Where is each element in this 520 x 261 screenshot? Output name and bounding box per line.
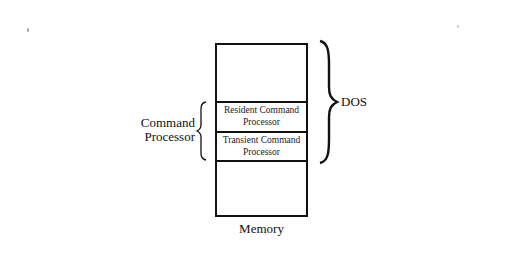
scan-artifact bbox=[27, 28, 29, 32]
resident-command-processor-cell: Resident Command Processor bbox=[217, 104, 306, 128]
divider-line bbox=[217, 160, 306, 162]
divider-line bbox=[217, 131, 306, 133]
left-brace-icon bbox=[195, 100, 209, 162]
memory-label: Memory bbox=[215, 222, 308, 236]
transient-line1: Transient Command bbox=[217, 134, 306, 146]
diagram-canvas: Resident Command Processor Transient Com… bbox=[0, 0, 520, 261]
resident-line2: Processor bbox=[217, 116, 306, 128]
right-brace-icon bbox=[318, 39, 340, 165]
scan-artifact bbox=[457, 25, 459, 28]
transient-command-processor-cell: Transient Command Processor bbox=[217, 134, 306, 158]
command-label-line2: Processor bbox=[140, 130, 195, 144]
command-processor-label: Command Processor bbox=[140, 116, 195, 144]
dos-label: DOS bbox=[341, 95, 367, 109]
resident-line1: Resident Command bbox=[217, 104, 306, 116]
memory-block: Resident Command Processor Transient Com… bbox=[215, 43, 308, 217]
divider-line bbox=[217, 101, 306, 103]
transient-line2: Processor bbox=[217, 146, 306, 158]
command-label-line1: Command bbox=[140, 116, 195, 130]
